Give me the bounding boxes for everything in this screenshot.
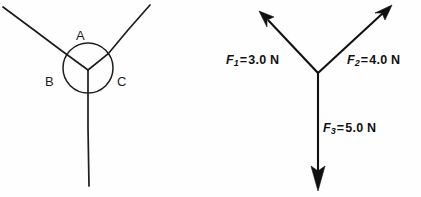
force-magnitude-f3: 5.0 bbox=[345, 121, 363, 135]
zone-label-a: A bbox=[76, 29, 85, 42]
force-label-f3: F3=5.0 N bbox=[323, 122, 376, 136]
ray-down-line bbox=[88, 70, 89, 186]
force-unit-f3: N bbox=[367, 121, 376, 135]
force-unit-f1: N bbox=[270, 53, 279, 67]
force-vector-svg bbox=[210, 0, 421, 197]
figure-root: A B C F1=3.0 N F2=4.0 N F3=5.0 N bbox=[0, 0, 421, 197]
force-relation-f3: = bbox=[336, 121, 346, 135]
force-relation-f1: = bbox=[239, 53, 249, 67]
angle-regions-panel: A B C bbox=[0, 0, 210, 197]
force-magnitude-f2: 4.0 bbox=[369, 53, 387, 67]
force-symbol-f3: F bbox=[323, 121, 331, 135]
ray-upper-right-line bbox=[88, 5, 150, 70]
force-vector-panel: F1=3.0 N F2=4.0 N F3=5.0 N bbox=[210, 0, 421, 197]
force-relation-f2: = bbox=[360, 53, 370, 67]
force-symbol-f1: F bbox=[226, 53, 234, 67]
force-symbol-f2: F bbox=[347, 53, 355, 67]
force-unit-f2: N bbox=[391, 53, 400, 67]
force-magnitude-f1: 3.0 bbox=[248, 53, 266, 67]
force-label-f2: F2=4.0 N bbox=[347, 54, 400, 68]
zone-label-c: C bbox=[117, 75, 126, 88]
angle-regions-svg bbox=[0, 0, 210, 197]
force-label-f1: F1=3.0 N bbox=[226, 54, 279, 68]
zone-label-b: B bbox=[45, 75, 54, 88]
